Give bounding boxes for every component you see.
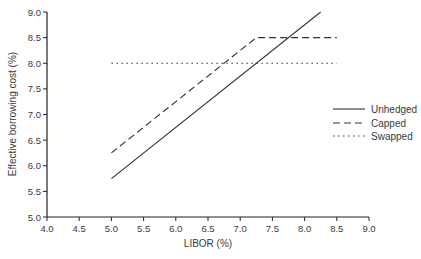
x-tick-label: 9.0 [362,223,375,234]
y-tick-label: 8.0 [28,58,41,69]
x-tick-label: 8.5 [330,223,343,234]
x-axis-ticks: 4.04.55.05.56.06.57.07.58.08.59.0 [40,217,375,234]
series-line-capped [111,38,336,153]
y-tick-label: 5.5 [28,186,41,197]
x-tick-label: 5.5 [137,223,150,234]
x-tick-label: 6.0 [169,223,182,234]
series-lines [111,12,336,179]
y-tick-label: 9.0 [28,7,41,18]
x-tick-label: 8.0 [298,223,311,234]
x-tick-label: 4.0 [40,223,53,234]
x-tick-label: 7.5 [266,223,279,234]
y-tick-label: 5.0 [28,212,41,223]
y-tick-label: 6.5 [28,135,41,146]
y-axis-ticks: 5.05.56.06.57.07.58.08.59.0 [28,7,47,223]
y-tick-label: 8.5 [28,32,41,43]
legend-label-swapped: Swapped [371,131,413,142]
line-chart: 5.05.56.06.57.07.58.08.59.0 4.04.55.05.5… [0,0,421,259]
x-tick-label: 7.0 [234,223,247,234]
y-tick-label: 7.5 [28,83,41,94]
legend-label-capped: Capped [371,118,406,129]
x-tick-label: 6.5 [201,223,214,234]
y-axis-title: Effective borrowing cost (%) [7,52,18,176]
legend-label-unhedged: Unhedged [371,104,417,115]
x-axis-title: LIBOR (%) [184,238,232,249]
x-tick-label: 4.5 [73,223,86,234]
x-tick-label: 5.0 [105,223,118,234]
y-tick-label: 6.0 [28,160,41,171]
series-line-unhedged [111,12,320,179]
legend: Unhedged Capped Swapped [333,104,417,142]
y-tick-label: 7.0 [28,109,41,120]
